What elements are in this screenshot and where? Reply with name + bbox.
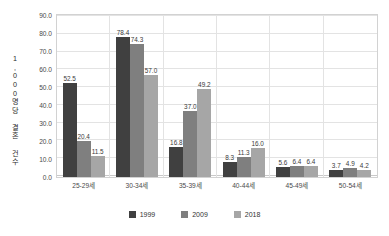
bar[interactable]: [130, 44, 144, 177]
bar[interactable]: [63, 83, 77, 177]
y-axis-tick-label: 80.0: [26, 30, 52, 37]
bar[interactable]: [237, 157, 251, 177]
bar-group: 78.474.357.0: [110, 15, 163, 177]
bar-value-label: 4.2: [360, 162, 369, 169]
bar[interactable]: [116, 37, 130, 177]
bar-slot: 4.2: [357, 15, 371, 177]
x-axis-tick-label: 30-34세: [110, 180, 163, 196]
bar-value-label: 8.3: [225, 154, 234, 161]
bar-slot: 8.3: [223, 15, 237, 177]
bar-slot: 78.4: [116, 15, 130, 177]
x-axis-tick-label: 40-44세: [217, 180, 270, 196]
x-axis-tick-labels: 25-29세30-34세35-39세40-44세45-49세50-54세: [57, 180, 377, 196]
legend-item[interactable]: 2018: [234, 211, 261, 218]
bar[interactable]: [183, 111, 197, 177]
bar-value-label: 16.0: [251, 140, 263, 147]
bar[interactable]: [197, 89, 211, 177]
bar-value-label: 11.5: [92, 148, 104, 155]
legend-label: 2018: [245, 211, 261, 218]
y-axis-tick-label: 20.0: [26, 138, 52, 145]
y-axis-tick-labels: 90.080.070.060.050.040.030.020.010.00.0: [22, 14, 52, 178]
legend-item[interactable]: 1999: [129, 211, 156, 218]
bar-value-label: 5.6: [279, 159, 288, 166]
bar[interactable]: [357, 170, 371, 178]
x-axis-tick-label: 50-54세: [324, 180, 377, 196]
bar-value-label: 6.4: [307, 158, 316, 165]
bar-slot: 37.0: [183, 15, 197, 177]
y-axis-tick-label: 50.0: [26, 84, 52, 91]
bar-value-label: 4.9: [346, 160, 355, 167]
bar-value-label: 16.8: [170, 139, 182, 146]
bar-slot: 6.4: [290, 15, 304, 177]
bar-group: 3.74.94.2: [324, 15, 377, 177]
bar-value-label: 78.4: [117, 29, 129, 36]
bar-group: 52.520.411.5: [57, 15, 110, 177]
y-axis-tick-label: 90.0: [26, 12, 52, 19]
bar-slot: 11.5: [91, 15, 105, 177]
bar-slot: 16.0: [251, 15, 265, 177]
legend-swatch-icon: [129, 211, 136, 218]
y-axis-tick-label: 10.0: [26, 156, 52, 163]
bar-value-label: 11.3: [238, 149, 250, 156]
bar-slot: 4.9: [343, 15, 357, 177]
bar-value-label: 3.7: [332, 162, 341, 169]
y-axis-tick-label: 0.0: [26, 174, 52, 181]
bar[interactable]: [223, 162, 237, 177]
bar-slot: 11.3: [237, 15, 251, 177]
x-axis-tick-label: 25-29세: [57, 180, 110, 196]
legend-label: 2009: [192, 211, 208, 218]
legend-label: 1999: [140, 211, 156, 218]
bar[interactable]: [304, 166, 318, 177]
bar-slot: 49.2: [197, 15, 211, 177]
bar-slot: 52.5: [63, 15, 77, 177]
legend-swatch-icon: [234, 211, 241, 218]
bar-chart: 1 , 0 0 0 명 당 결 혼 건 수 90.080.070.060.050…: [0, 0, 389, 236]
bar[interactable]: [329, 170, 343, 177]
y-axis-tick-label: 60.0: [26, 66, 52, 73]
bar[interactable]: [169, 147, 183, 177]
bar-value-label: 20.4: [77, 133, 89, 140]
bar-slot: 16.8: [169, 15, 183, 177]
bar-slot: 20.4: [77, 15, 91, 177]
bar[interactable]: [91, 156, 105, 177]
bar[interactable]: [77, 141, 91, 177]
bar[interactable]: [343, 168, 357, 177]
bar-slot: 6.4: [304, 15, 318, 177]
bar-slot: 5.6: [276, 15, 290, 177]
y-axis-tick-label: 30.0: [26, 120, 52, 127]
bar-group: 16.837.049.2: [164, 15, 217, 177]
bar[interactable]: [290, 166, 304, 177]
bar-value-label: 57.0: [145, 67, 157, 74]
x-axis-tick-label: 35-39세: [164, 180, 217, 196]
bar[interactable]: [144, 75, 158, 177]
bar-group: 8.311.316.0: [217, 15, 270, 177]
bar-value-label: 37.0: [184, 103, 196, 110]
bar-group: 5.66.46.4: [270, 15, 323, 177]
bar-groups: 52.520.411.578.474.357.016.837.049.28.31…: [57, 15, 377, 177]
bar-value-label: 49.2: [198, 81, 210, 88]
chart-legend: 199920092018: [0, 211, 389, 218]
bar-slot: 74.3: [130, 15, 144, 177]
bar-value-label: 6.4: [293, 158, 302, 165]
y-axis-tick-label: 70.0: [26, 48, 52, 55]
y-axis-tick-label: 40.0: [26, 102, 52, 109]
bar-slot: 57.0: [144, 15, 158, 177]
bar-slot: 3.7: [329, 15, 343, 177]
bar[interactable]: [251, 148, 265, 177]
x-axis-tick-label: 45-49세: [270, 180, 323, 196]
bar-value-label: 52.5: [63, 75, 75, 82]
legend-swatch-icon: [181, 211, 188, 218]
bar[interactable]: [276, 167, 290, 177]
legend-item[interactable]: 2009: [181, 211, 208, 218]
bar-value-label: 74.3: [131, 36, 143, 43]
